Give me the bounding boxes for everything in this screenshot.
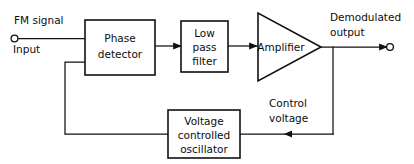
low-pass-filter-label-line3: filter xyxy=(192,55,217,67)
output-label-line1: Demodulated xyxy=(330,11,401,23)
phase-detector-label-line2: detector xyxy=(98,48,143,60)
low-pass-filter-label-line2: pass xyxy=(192,41,216,53)
vco-label-line2: controlled xyxy=(178,129,230,141)
input-terminal[interactable] xyxy=(11,35,18,42)
input-label-line2: Input xyxy=(13,43,40,55)
control-voltage-label-line2: voltage xyxy=(269,112,308,124)
vco-label-line3: oscillator xyxy=(180,143,228,155)
vco-label-line1: Voltage xyxy=(184,115,223,127)
control-voltage-label-line1: Control xyxy=(269,97,307,109)
block-diagram-canvas: Phase detector Low pass filter Amplifier… xyxy=(0,0,414,164)
output-label-line2: output xyxy=(330,26,365,38)
amplifier-label: Amplifier xyxy=(257,41,305,53)
low-pass-filter-label-line1: Low xyxy=(194,27,215,39)
block-diagram-svg: Phase detector Low pass filter Amplifier… xyxy=(0,0,414,164)
arrowhead-control-voltage xyxy=(284,131,292,138)
input-label-line1: FM signal xyxy=(14,14,64,26)
output-terminal[interactable] xyxy=(387,44,394,51)
phase-detector-label-line1: Phase xyxy=(104,32,135,44)
